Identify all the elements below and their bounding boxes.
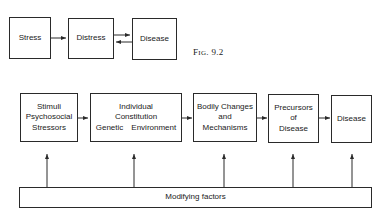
disease-box-fig93: Disease [331, 95, 372, 143]
stimuli-box: Stimuli Psychosocial Stressors [20, 93, 78, 142]
modifying-factors-bar: Modifying factors [19, 187, 372, 208]
precursors-box: Precursors of Disease [268, 94, 319, 143]
distress-label: Distress [77, 33, 106, 44]
individual-constitution-box: Individual Constitution Genetic Environm… [90, 93, 182, 142]
figure-caption-9-2: FIG. 9.2 [193, 47, 224, 57]
disease-box-fig92: Disease [132, 18, 177, 60]
bodily-changes-box: Bodily Changes and Mechanisms [193, 93, 257, 142]
modifying-factors-label: Modifying factors [165, 192, 225, 203]
disease-label-fig92: Disease [140, 34, 169, 45]
stress-label: Stress [19, 33, 42, 44]
distress-box: Distress [68, 18, 114, 59]
stress-box: Stress [9, 17, 51, 59]
